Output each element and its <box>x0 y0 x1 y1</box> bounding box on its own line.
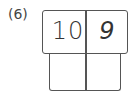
bottom-divider <box>85 53 87 90</box>
top-left-number: 10 <box>51 17 85 45</box>
top-right-number: 9 <box>87 17 127 45</box>
bottom-answer-box <box>49 53 121 91</box>
problem-number-label: (6) <box>8 6 28 22</box>
top-number-box: 10 9 <box>42 10 128 54</box>
